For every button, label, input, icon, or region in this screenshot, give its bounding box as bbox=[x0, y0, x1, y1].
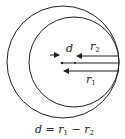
outer-circle bbox=[7, 6, 119, 118]
inner-center-dot bbox=[74, 62, 76, 64]
outer-center-dot bbox=[61, 62, 64, 65]
concentric-circles-diagram: d r2 r1 d = r1 − r2 bbox=[0, 0, 125, 139]
caption-equation: d = r1 − r2 bbox=[35, 123, 94, 137]
label-d: d bbox=[66, 42, 73, 55]
label-r2: r2 bbox=[90, 40, 100, 54]
inner-circle bbox=[29, 17, 119, 107]
label-r1: r1 bbox=[86, 73, 96, 87]
